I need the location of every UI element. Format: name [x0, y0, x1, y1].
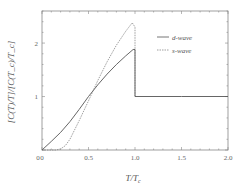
chart: 00.51.01.52.0 120 d-wave s-wave T/Tc [C(…	[0, 0, 243, 189]
legend: d-wave s-wave	[157, 34, 192, 55]
data-series	[42, 23, 228, 150]
y-tick-label: 2	[35, 40, 39, 48]
x-tick-label: 2.0	[224, 154, 233, 162]
y-tick-labels: 120	[35, 40, 41, 162]
x-tick-label: 0.5	[84, 154, 93, 162]
x-tick-label: 0	[40, 154, 44, 162]
legend-label-s-wave: s-wave	[172, 47, 191, 55]
x-tick-label: 1.5	[177, 154, 186, 162]
series-s-wave	[42, 23, 135, 150]
series-d-wave	[42, 50, 228, 151]
y-tick-label: 1	[35, 93, 39, 101]
x-axis-label: T/Tc	[125, 173, 141, 184]
legend-label-d-wave: d-wave	[172, 34, 192, 42]
x-tick-labels: 00.51.01.52.0	[40, 154, 233, 162]
x-tick-label: 1.0	[131, 154, 140, 162]
origin-tick-label: 0	[36, 154, 40, 162]
y-axis-label: [C(T)/T]/[C(T_c)/T_c]	[6, 40, 16, 123]
